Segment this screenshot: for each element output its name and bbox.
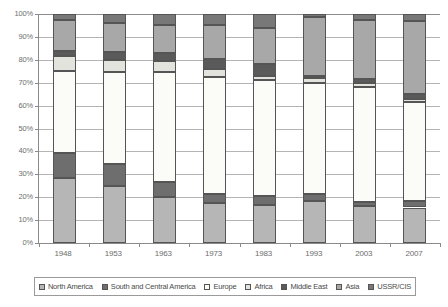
- bar-segment[interactable]: [253, 196, 276, 205]
- legend-item[interactable]: Middle East: [281, 282, 327, 291]
- bar-stack: [303, 14, 326, 243]
- bar-segment[interactable]: [203, 194, 226, 203]
- bar-segment[interactable]: [103, 186, 126, 243]
- legend-item[interactable]: North America: [39, 282, 93, 291]
- bar-segment[interactable]: [403, 14, 426, 21]
- bar-segment[interactable]: [403, 99, 426, 102]
- bar-segment[interactable]: [303, 78, 326, 83]
- legend-label: Middle East: [290, 282, 327, 291]
- bar-segment[interactable]: [153, 14, 176, 25]
- x-tick-mark: [139, 243, 140, 247]
- bar-segment[interactable]: [203, 25, 226, 58]
- x-tick-mark: [390, 243, 391, 247]
- bar-segment[interactable]: [103, 23, 126, 52]
- bar-stack: [253, 14, 276, 243]
- legend-label: Asia: [345, 282, 359, 291]
- y-axis-tick-label: 60%: [19, 102, 33, 110]
- bar-column[interactable]: [53, 14, 76, 243]
- y-axis-tick-label: 70%: [19, 79, 33, 87]
- bar-segment[interactable]: [303, 83, 326, 194]
- legend-swatch-icon: [336, 284, 342, 290]
- bar-column[interactable]: [153, 14, 176, 243]
- bar-segment[interactable]: [53, 71, 76, 152]
- x-tick-mark: [340, 243, 341, 247]
- bar-segment[interactable]: [253, 28, 276, 65]
- bar-segment[interactable]: [253, 80, 276, 196]
- bar-column[interactable]: [403, 14, 426, 243]
- bar-segment[interactable]: [303, 201, 326, 243]
- bar-segment[interactable]: [103, 164, 126, 186]
- bar-segment[interactable]: [303, 194, 326, 201]
- bar-segment[interactable]: [203, 59, 226, 69]
- bar-column[interactable]: [103, 14, 126, 243]
- bar-column[interactable]: [203, 14, 226, 243]
- stacked-bar-chart: 0%10%20%30%40%50%60%70%80%90%100% 194819…: [0, 0, 448, 307]
- bar-segment[interactable]: [253, 14, 276, 28]
- legend-swatch-icon: [102, 284, 108, 290]
- x-axis-tick-label: 2007: [405, 249, 422, 258]
- bar-segment[interactable]: [253, 76, 276, 81]
- bar-segment[interactable]: [53, 153, 76, 178]
- bar-segment[interactable]: [253, 64, 276, 75]
- bar-segment[interactable]: [353, 87, 376, 202]
- legend-swatch-icon: [368, 284, 374, 290]
- bar-segment[interactable]: [353, 202, 376, 207]
- x-tick-mark: [189, 243, 190, 247]
- bar-segment[interactable]: [203, 203, 226, 243]
- bar-segment[interactable]: [53, 56, 76, 71]
- bar-column[interactable]: [253, 14, 276, 243]
- x-axis-tick-label: 1953: [105, 249, 122, 258]
- bar-segment[interactable]: [103, 72, 126, 164]
- bar-segment[interactable]: [353, 83, 376, 88]
- bar-segment[interactable]: [203, 77, 226, 194]
- bar-segment[interactable]: [153, 61, 176, 72]
- bar-segment[interactable]: [303, 17, 326, 75]
- bar-segment[interactable]: [353, 206, 376, 243]
- legend-label: Africa: [254, 282, 272, 291]
- bar-segment[interactable]: [353, 79, 376, 82]
- legend-item[interactable]: Asia: [336, 282, 359, 291]
- bar-segment[interactable]: [353, 14, 376, 20]
- legend-item[interactable]: USSR/CIS: [368, 282, 411, 291]
- bar-segment[interactable]: [153, 53, 176, 61]
- bar-segment[interactable]: [253, 205, 276, 243]
- bar-segment[interactable]: [103, 14, 126, 23]
- legend-item[interactable]: Africa: [245, 282, 272, 291]
- legend-swatch-icon: [39, 284, 45, 290]
- bar-segment[interactable]: [153, 197, 176, 243]
- bar-segment[interactable]: [303, 14, 326, 17]
- bar-segment[interactable]: [403, 21, 426, 94]
- x-axis: 19481953196319731983199320032007: [38, 249, 439, 267]
- bar-segment[interactable]: [153, 182, 176, 197]
- y-axis-tick-label: 10%: [19, 216, 33, 224]
- bar-segment[interactable]: [403, 94, 426, 99]
- bar-segment[interactable]: [203, 14, 226, 25]
- legend-item[interactable]: South and Central America: [102, 282, 196, 291]
- bar-segment[interactable]: [303, 76, 326, 78]
- bar-segment[interactable]: [403, 102, 426, 200]
- y-axis-tick-label: 20%: [19, 193, 33, 201]
- bar-segment[interactable]: [403, 208, 426, 243]
- bar-segment[interactable]: [353, 20, 376, 80]
- bar-stack: [203, 14, 226, 243]
- bar-segment[interactable]: [53, 51, 76, 57]
- legend-item[interactable]: Europe: [204, 282, 236, 291]
- legend-label: North America: [48, 282, 93, 291]
- bar-column[interactable]: [353, 14, 376, 243]
- bar-segment[interactable]: [103, 60, 126, 73]
- x-axis-tick-label: 1973: [205, 249, 222, 258]
- bar-segment[interactable]: [153, 72, 176, 182]
- bar-segment[interactable]: [403, 201, 426, 208]
- bar-segment[interactable]: [53, 14, 76, 20]
- x-tick-mark: [39, 243, 40, 247]
- y-axis-tick-label: 50%: [19, 125, 33, 133]
- x-axis-tick-label: 2003: [355, 249, 372, 258]
- bar-column[interactable]: [303, 14, 326, 243]
- bar-segment[interactable]: [153, 25, 176, 52]
- bar-segment[interactable]: [103, 52, 126, 60]
- bar-segment[interactable]: [53, 20, 76, 51]
- y-axis-tick-label: 30%: [19, 170, 33, 178]
- legend-label: Europe: [213, 282, 236, 291]
- bar-segment[interactable]: [53, 178, 76, 243]
- bar-segment[interactable]: [203, 69, 226, 77]
